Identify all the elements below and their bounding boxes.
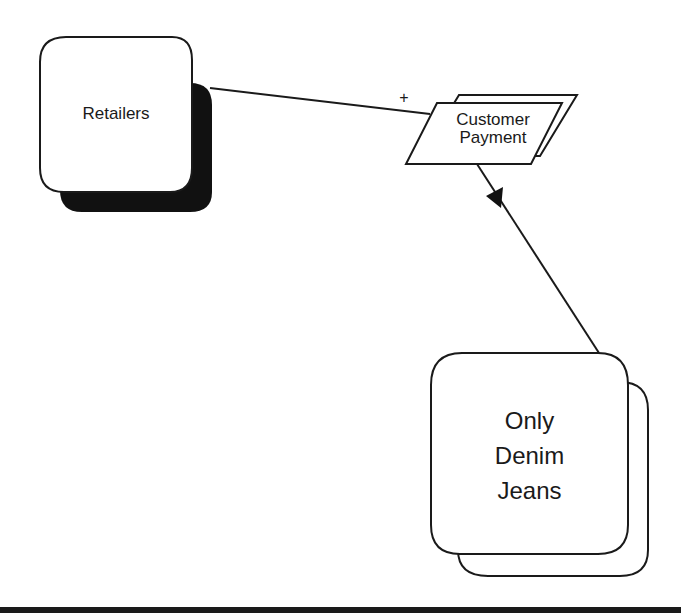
jeans-label-line3: Jeans	[431, 474, 628, 509]
bottom-border	[0, 607, 681, 613]
customer-payment-label: Customer Payment	[438, 111, 548, 147]
retailers-label: Retailers	[40, 105, 192, 123]
only-denim-jeans-label: Only Denim Jeans	[431, 404, 628, 508]
jeans-label-line1: Only	[431, 404, 628, 439]
jeans-label-line2: Denim	[431, 439, 628, 474]
diagram-canvas	[0, 0, 681, 613]
customer-payment-label-line2: Payment	[438, 129, 548, 147]
customer-payment-label-line1: Customer	[438, 111, 548, 129]
edge-label-plus: +	[397, 90, 411, 107]
